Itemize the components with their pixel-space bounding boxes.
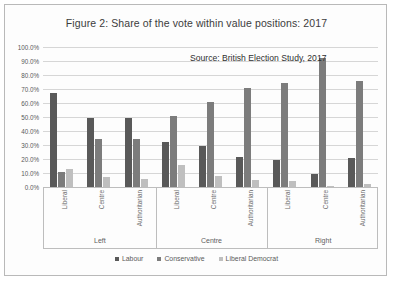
x-axis-category-label: Liberal — [173, 190, 180, 209]
y-axis-tick-label: 90.0% — [21, 58, 39, 65]
bar-centre-liberal-conservative — [170, 116, 177, 187]
bar-left-authoritarian-conservative — [133, 139, 140, 187]
figure-frame: Figure 2: Share of the vote within value… — [4, 4, 387, 276]
legend-swatch-icon — [219, 257, 223, 261]
legend-item-libdem[interactable]: Liberal Democrat — [219, 255, 278, 262]
y-axis-tick-label: 100.0% — [18, 44, 39, 51]
x-axis-category-label: Authoritarian — [247, 190, 254, 226]
bar-centre-authoritarian-libdem — [252, 180, 259, 187]
bar-left-liberal-labour — [50, 93, 57, 187]
gridline-100: 100.0% — [43, 47, 378, 48]
gridline-70: 70.0% — [43, 89, 378, 90]
x-axis-category-label: Centre — [322, 190, 329, 209]
x-axis-category-label: Centre — [210, 190, 217, 209]
chart-title: Figure 2: Share of the vote within value… — [5, 17, 388, 29]
bar-left-liberal-libdem — [66, 169, 73, 187]
x-axis-group-label-left: Left — [44, 237, 156, 244]
bar-left-liberal-conservative — [58, 172, 65, 187]
plot-area: 100.0%90.0%80.0%70.0%60.0%50.0%40.0%30.0… — [43, 47, 378, 187]
y-axis-tick-label: 70.0% — [21, 86, 39, 93]
chart-legend: LabourConservativeLiberal Democrat — [5, 255, 388, 262]
bar-right-centre-labour — [311, 174, 318, 187]
bar-centre-centre-libdem — [215, 176, 222, 187]
legend-swatch-icon — [157, 257, 161, 261]
y-axis-tick-label: 0.0% — [25, 184, 39, 191]
bar-centre-liberal-libdem — [178, 165, 185, 187]
legend-label: Liberal Democrat — [226, 255, 278, 262]
x-axis-category-label: Authoritarian — [359, 190, 366, 226]
y-axis-tick-label: 80.0% — [21, 72, 39, 79]
legend-label: Conservative — [164, 255, 204, 262]
bar-right-centre-conservative — [319, 58, 326, 187]
y-axis-tick-label: 60.0% — [21, 100, 39, 107]
y-axis-tick-label: 10.0% — [21, 170, 39, 177]
x-axis-category-label: Authoritarian — [136, 190, 143, 226]
bar-right-authoritarian-conservative — [356, 81, 363, 187]
bar-left-centre-libdem — [103, 177, 110, 188]
y-axis-tick-label: 20.0% — [21, 156, 39, 163]
bar-right-authoritarian-labour — [348, 158, 355, 187]
x-axis-group-label-centre: Centre — [156, 237, 268, 244]
y-axis-tick-label: 40.0% — [21, 128, 39, 135]
bar-left-centre-labour — [87, 118, 94, 187]
legend-swatch-icon — [115, 257, 119, 261]
bar-left-authoritarian-libdem — [141, 179, 148, 187]
gridline-80: 80.0% — [43, 75, 378, 76]
x-axis-category-label: Liberal — [61, 190, 68, 209]
x-axis-group-label-right: Right — [267, 237, 379, 244]
bar-left-centre-conservative — [95, 139, 102, 187]
source-annotation: Source: British Election Study, 2017 — [190, 53, 326, 63]
x-axis-category-label: Liberal — [284, 190, 291, 209]
y-axis-tick-label: 50.0% — [21, 114, 39, 121]
x-axis-category-label: Centre — [98, 190, 105, 209]
y-axis-tick-label: 30.0% — [21, 142, 39, 149]
bar-centre-authoritarian-conservative — [244, 88, 251, 187]
legend-item-conservative[interactable]: Conservative — [157, 255, 204, 262]
legend-item-labour[interactable]: Labour — [115, 255, 143, 262]
bar-centre-authoritarian-labour — [236, 157, 243, 187]
bar-right-liberal-labour — [273, 160, 280, 187]
bar-left-authoritarian-labour — [125, 118, 132, 187]
bar-centre-liberal-labour — [162, 142, 169, 187]
bar-centre-centre-labour — [199, 146, 206, 187]
bar-right-liberal-conservative — [281, 83, 288, 187]
bar-centre-centre-conservative — [207, 102, 214, 187]
legend-label: Labour — [122, 255, 143, 262]
x-axis-region: LiberalCentreAuthoritarianLeftLiberalCen… — [43, 187, 378, 249]
